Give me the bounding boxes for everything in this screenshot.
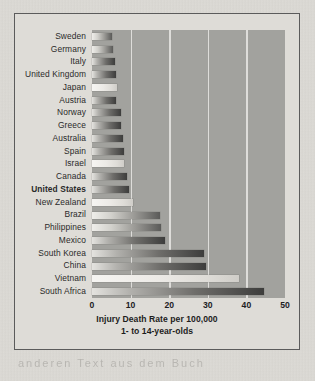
bar-row: [92, 272, 285, 285]
axis-title-line-2: 1- to 14-year-olds: [15, 326, 299, 338]
x-tick-label: 40: [242, 300, 252, 310]
bar: [92, 122, 121, 129]
category-label: Mexico: [59, 235, 86, 245]
x-tick-label: 50: [280, 300, 290, 310]
category-label: Germany: [51, 44, 86, 54]
x-axis-ticks: 01020304050: [92, 300, 285, 313]
bar-row: [92, 43, 285, 56]
bar: [92, 212, 160, 219]
category-label: New Zealand: [36, 197, 86, 207]
category-label: Greece: [58, 120, 86, 130]
category-label: Sweden: [55, 31, 86, 41]
bar: [92, 160, 124, 167]
x-tick-label: 30: [203, 300, 213, 310]
bar-row: [92, 260, 285, 273]
category-label: Austria: [59, 95, 86, 105]
bar: [92, 288, 264, 295]
x-tick-label: 0: [90, 300, 95, 310]
bar: [92, 58, 115, 65]
chart-figure: SwedenGermanyItalyUnited KingdomJapanAus…: [14, 13, 300, 350]
bar-row: [92, 234, 285, 247]
bar: [92, 148, 124, 155]
bar-row: [92, 56, 285, 69]
category-label: Philippines: [44, 222, 86, 232]
category-label: United Kingdom: [25, 69, 86, 79]
bar-row: [92, 119, 285, 132]
bar-row: [92, 81, 285, 94]
bar-row: [92, 94, 285, 107]
category-label: Israel: [65, 158, 86, 168]
bar-series: [92, 30, 285, 298]
bar-row: [92, 183, 285, 196]
bar-row: [92, 285, 285, 298]
plot-area: [92, 30, 285, 298]
bar-row: [92, 196, 285, 209]
bar: [92, 109, 121, 116]
page-bleed-through-text: anderen Text aus dem Buch: [18, 357, 298, 377]
bar-row: [92, 132, 285, 145]
category-label: Australia: [53, 133, 86, 143]
bar-row: [92, 145, 285, 158]
bar-row: [92, 221, 285, 234]
bar: [92, 33, 112, 40]
bar-row: [92, 170, 285, 183]
category-label: South Africa: [40, 286, 86, 296]
bar: [92, 97, 116, 104]
bar: [92, 84, 117, 91]
bar: [92, 71, 116, 78]
bar-row: [92, 209, 285, 222]
bar: [92, 275, 239, 282]
bar: [92, 173, 127, 180]
category-label: Italy: [70, 56, 86, 66]
bar: [92, 46, 113, 53]
category-label: Canada: [56, 171, 86, 181]
category-label: China: [64, 260, 86, 270]
bar: [92, 237, 165, 244]
axis-title-line-1: Injury Death Rate per 100,000: [15, 314, 299, 326]
bar: [92, 250, 204, 257]
bar-row: [92, 30, 285, 43]
axis-title: Injury Death Rate per 100,000 1- to 14-y…: [15, 314, 299, 337]
category-axis-labels: SwedenGermanyItalyUnited KingdomJapanAus…: [15, 30, 90, 298]
category-label: Vietnam: [55, 273, 86, 283]
category-label: Spain: [64, 146, 86, 156]
category-label: Japan: [63, 82, 86, 92]
category-label: South Korea: [38, 248, 86, 258]
category-label: Norway: [57, 107, 86, 117]
bar: [92, 135, 123, 142]
x-tick-label: 20: [164, 300, 174, 310]
bar-row: [92, 68, 285, 81]
bar-row: [92, 158, 285, 171]
bar-row: [92, 247, 285, 260]
x-tick-label: 10: [126, 300, 136, 310]
bar: [92, 263, 206, 270]
category-label: Brazil: [64, 209, 86, 219]
bar-row: [92, 107, 285, 120]
bar: [92, 224, 161, 231]
category-label: United States: [31, 184, 86, 194]
bar: [92, 186, 129, 193]
bar: [92, 199, 133, 206]
